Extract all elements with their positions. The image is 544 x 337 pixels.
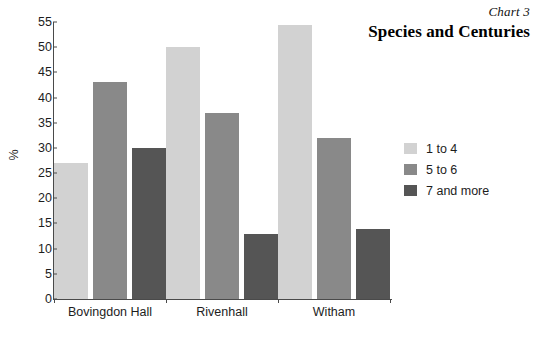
x-axis-category-label: Rivenhall — [196, 305, 247, 319]
x-axis-tick-mark — [390, 299, 391, 303]
x-axis-tick-mark — [166, 299, 167, 303]
legend-swatch-icon — [404, 164, 417, 175]
x-axis-tick-mark — [278, 299, 279, 303]
y-axis-tick-label: 15 — [26, 216, 52, 230]
y-axis-tick-mark — [53, 72, 57, 73]
bar — [93, 82, 127, 299]
y-axis-tick-mark — [53, 273, 57, 274]
y-axis-tick-mark — [53, 97, 57, 98]
bar — [132, 148, 166, 299]
y-axis-tick-mark — [53, 223, 57, 224]
legend-item-label: 5 to 6 — [426, 163, 457, 177]
y-axis-tick-label: 5 — [26, 267, 52, 281]
y-axis-tick-label: 40 — [26, 91, 52, 105]
y-axis-tick-mark — [53, 198, 57, 199]
legend-swatch-icon — [404, 143, 417, 154]
y-axis-tick-mark — [53, 147, 57, 148]
y-axis-tick-label: 25 — [26, 166, 52, 180]
y-axis-tick-label: 35 — [26, 116, 52, 130]
legend-item-label: 1 to 4 — [426, 142, 457, 156]
legend-swatch-icon — [404, 185, 417, 196]
y-axis-tick-label: 50 — [26, 40, 52, 54]
y-axis-tick-label: 30 — [26, 141, 52, 155]
legend-item: 1 to 4 — [404, 140, 536, 157]
y-axis-tick-mark — [53, 173, 57, 174]
x-axis-category-label: Bovingdon Hall — [68, 305, 152, 319]
y-axis-tick-label: 0 — [26, 292, 52, 306]
chart-number-caption: Chart 3 — [489, 4, 531, 20]
y-axis-tick-label: 55 — [26, 15, 52, 29]
legend-item-label: 7 and more — [426, 184, 489, 198]
x-axis-line — [53, 299, 392, 300]
y-axis-tick-mark — [53, 299, 57, 300]
bar — [205, 113, 239, 299]
y-axis-tick-mark — [53, 47, 57, 48]
y-axis-tick-mark — [53, 248, 57, 249]
chart-figure: Chart 3 Species and Centuries % 05101520… — [0, 0, 544, 337]
chart-legend: 1 to 45 to 67 and more — [404, 140, 536, 203]
y-axis-tick-label: 10 — [26, 242, 52, 256]
bar — [244, 234, 278, 299]
y-axis-ticks: 0510152025303540455055 — [16, 0, 52, 337]
legend-item: 5 to 6 — [404, 161, 536, 178]
bar — [166, 47, 200, 299]
bars-layer — [54, 22, 390, 299]
y-axis-tick-mark — [53, 122, 57, 123]
y-axis-tick-label: 20 — [26, 191, 52, 205]
bar — [317, 138, 351, 299]
x-axis-category-label: Witham — [313, 305, 355, 319]
legend-item: 7 and more — [404, 182, 536, 199]
y-axis-tick-label: 45 — [26, 65, 52, 79]
y-axis-tick-mark — [53, 22, 57, 23]
bar — [54, 163, 88, 299]
bar — [356, 229, 390, 300]
bar — [278, 25, 312, 299]
chart-title: Species and Centuries — [368, 22, 530, 42]
x-axis-tick-mark — [54, 299, 55, 303]
